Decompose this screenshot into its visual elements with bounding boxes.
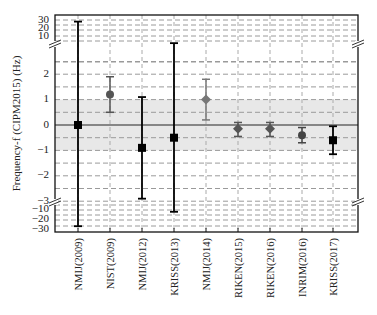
x-category-label: NMIJ(2009) bbox=[73, 238, 85, 291]
x-category-label: RIKEN(2016) bbox=[265, 238, 277, 299]
y-tick-label: 2 bbox=[44, 67, 50, 79]
x-category-label: NIST(2009) bbox=[105, 237, 117, 289]
y-tick-label: 1 bbox=[44, 92, 50, 104]
x-category-label: NMIJ(2012) bbox=[137, 238, 149, 291]
y-tick-label: −1 bbox=[37, 143, 49, 155]
axis-labels: 302010210−1−2−3−10−20−30Frequency-f (CIP… bbox=[10, 13, 340, 299]
square-marker-icon bbox=[74, 121, 82, 129]
x-category-label: RIKEN(2015) bbox=[233, 238, 245, 299]
x-category-label: NMIJ(2014) bbox=[201, 238, 213, 291]
square-marker-icon bbox=[170, 134, 178, 142]
y-tick-label: 0 bbox=[44, 118, 50, 130]
circle-marker-icon bbox=[298, 131, 306, 139]
y-tick-label: 10 bbox=[38, 29, 50, 41]
x-category-label: KRISS(2017) bbox=[328, 238, 340, 296]
data-point-nmij-2009 bbox=[74, 22, 82, 227]
circle-marker-icon bbox=[106, 91, 114, 99]
x-category-label: INRIM(2016) bbox=[297, 238, 309, 297]
y-tick-label: −2 bbox=[37, 168, 49, 180]
y-axis-title: Frequency-f (CIPM2015) (Hz) bbox=[10, 55, 23, 191]
y-tick-label: −30 bbox=[32, 222, 50, 234]
square-marker-icon bbox=[329, 136, 337, 144]
square-marker-icon bbox=[138, 144, 146, 152]
x-category-label: KRISS(2013) bbox=[169, 238, 181, 296]
chart: 302010210−1−2−3−10−20−30Frequency-f (CIP… bbox=[0, 0, 377, 315]
plot-area bbox=[49, 15, 364, 232]
